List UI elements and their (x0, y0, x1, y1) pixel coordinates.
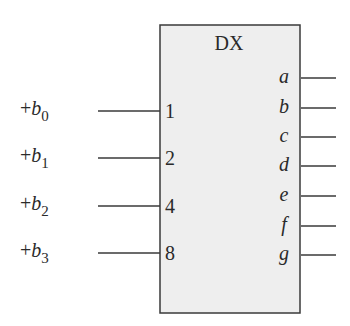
signal-letter: b (31, 144, 41, 166)
input-signal-label: +b0 (20, 97, 49, 124)
signal-subscript: 2 (41, 203, 49, 219)
input-signal-label: +b2 (20, 192, 49, 219)
input-pin-label: 1 (165, 100, 175, 122)
output-pin-label: c (280, 124, 289, 146)
inputs-group: +b01+b12+b24+b38 (20, 97, 175, 266)
block-title: DX (215, 32, 244, 54)
input-signal-label: +b3 (20, 239, 49, 266)
signal-letter: b (31, 192, 41, 214)
output-pin-label: b (279, 95, 289, 117)
signal-subscript: 3 (41, 250, 49, 266)
input-pin-label: 2 (165, 147, 175, 169)
input-pin-label: 4 (165, 195, 175, 217)
output-pin-label: g (279, 242, 289, 265)
output-pin-label: e (280, 183, 289, 205)
output-pin-label: d (279, 153, 290, 175)
output-pin-label: a (279, 65, 289, 87)
signal-letter: b (31, 239, 41, 261)
signal-name: + (20, 97, 31, 119)
signal-name: + (20, 192, 31, 214)
decoder-diagram: DX +b01+b12+b24+b38 abcdefg (0, 0, 350, 326)
signal-subscript: 1 (41, 155, 49, 171)
signal-name: + (20, 144, 31, 166)
signal-name: + (20, 239, 31, 261)
signal-letter: b (31, 97, 41, 119)
signal-subscript: 0 (41, 108, 49, 124)
input-pin-label: 8 (165, 242, 175, 264)
input-signal-label: +b1 (20, 144, 49, 171)
